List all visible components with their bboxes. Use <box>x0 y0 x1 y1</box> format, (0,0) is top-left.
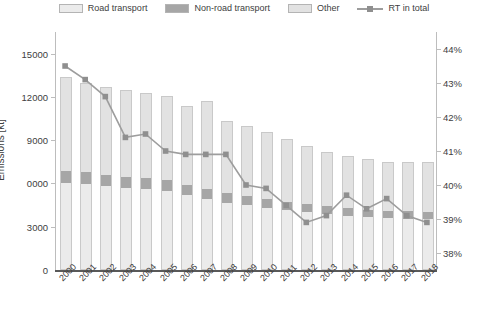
plot-area <box>55 32 437 270</box>
y-axis-right-tick-label: 41% <box>443 146 462 157</box>
bar-segment-other <box>383 163 393 211</box>
bar-2006[interactable] <box>181 106 193 270</box>
bar-segment-non-road-transport <box>383 211 393 219</box>
y-axis-right-tick <box>437 117 441 118</box>
y-axis-right-tick <box>437 151 441 152</box>
y-axis-right-tick-label: 43% <box>443 78 462 89</box>
y-axis-left-tick-label: 3000 <box>27 221 48 232</box>
bar-segment-non-road-transport <box>222 193 232 203</box>
bar-2011[interactable] <box>281 139 293 270</box>
bar-segment-non-road-transport <box>343 208 353 216</box>
legend-label: Non-road transport <box>194 4 270 13</box>
bar-segment-other <box>222 122 232 193</box>
y-axis-left-tick-label: 0000 <box>27 178 48 189</box>
bar-segment-other <box>202 102 212 189</box>
bar-segment-non-road-transport <box>202 189 212 199</box>
bar-segment-non-road-transport <box>121 177 131 188</box>
bar-2015[interactable] <box>362 159 374 270</box>
bar-segment-road-transport <box>282 210 292 269</box>
bar-segment-other <box>322 153 332 207</box>
bar-2005[interactable] <box>161 96 173 270</box>
y-axis-right-tick-label: 44% <box>443 44 462 55</box>
y-axis-right-tick <box>437 83 441 84</box>
legend-rt-in-total[interactable]: RT in total <box>357 4 429 13</box>
bar-segment-non-road-transport <box>322 206 332 214</box>
legend-line-marker-icon <box>357 4 383 13</box>
bar-segment-road-transport <box>182 195 192 269</box>
y-axis-left-tick <box>51 97 55 98</box>
legend-road-transport[interactable]: Road transport <box>59 4 148 13</box>
bar-segment-road-transport <box>61 183 71 269</box>
y-axis-right-tick <box>437 49 441 50</box>
y-axis-left-tick <box>51 140 55 141</box>
y-axis-right-tick <box>437 185 441 186</box>
bar-2009[interactable] <box>241 126 253 270</box>
bar-2017[interactable] <box>402 162 414 270</box>
bar-segment-other <box>121 91 131 177</box>
bar-2000[interactable] <box>60 77 72 270</box>
bar-segment-non-road-transport <box>81 172 91 184</box>
bar-segment-other <box>282 140 292 202</box>
bar-2018[interactable] <box>422 162 434 270</box>
bar-2007[interactable] <box>201 101 213 270</box>
bar-segment-other <box>363 160 373 210</box>
legend-label: Other <box>317 4 340 13</box>
bar-2004[interactable] <box>140 93 152 270</box>
y-axis-left-tick <box>51 54 55 55</box>
legend-swatch-icon <box>59 4 83 13</box>
bar-segment-non-road-transport <box>423 212 433 219</box>
y-axis-right-tick <box>437 219 441 220</box>
legend-swatch-icon <box>288 4 312 13</box>
bar-segment-road-transport <box>343 216 353 269</box>
bar-segment-other <box>242 127 252 196</box>
bar-segment-non-road-transport <box>101 175 111 186</box>
bar-segment-road-transport <box>302 212 312 269</box>
bar-segment-non-road-transport <box>363 210 373 218</box>
bar-segment-other <box>182 107 192 185</box>
bar-2014[interactable] <box>342 156 354 270</box>
bar-2010[interactable] <box>261 132 273 270</box>
bar-segment-non-road-transport <box>61 171 71 183</box>
y-axis-right-tick-label: 39% <box>443 214 462 225</box>
bar-segment-road-transport <box>242 205 252 269</box>
legend-other[interactable]: Other <box>288 4 340 13</box>
bar-segment-other <box>61 78 71 172</box>
bar-segment-road-transport <box>81 184 91 269</box>
bar-2001[interactable] <box>80 83 92 271</box>
legend-swatch-icon <box>165 4 189 13</box>
bar-segment-road-transport <box>202 199 212 269</box>
bar-segment-road-transport <box>162 191 172 269</box>
y-axis-left-tick <box>51 183 55 184</box>
y-axis-left-labels: 03000000090001200015000 <box>0 0 48 312</box>
bar-2012[interactable] <box>301 146 313 270</box>
bar-2016[interactable] <box>382 162 394 270</box>
bar-segment-non-road-transport <box>262 199 272 208</box>
bar-segment-non-road-transport <box>302 204 312 212</box>
bar-segment-other <box>423 163 433 212</box>
y-axis-left-tick-label: 9000 <box>27 135 48 146</box>
legend-non-road-transport[interactable]: Non-road transport <box>165 4 270 13</box>
bar-segment-road-transport <box>222 203 232 269</box>
bar-segment-non-road-transport <box>141 178 151 189</box>
bar-segment-other <box>403 163 413 212</box>
emissions-stacked-bar-chart: Road transportNon-road transportOtherRT … <box>0 0 488 312</box>
bar-2008[interactable] <box>221 121 233 270</box>
bar-segment-other <box>162 97 172 180</box>
bar-segment-road-transport <box>101 186 111 269</box>
legend-label: RT in total <box>388 4 429 13</box>
y-axis-left-tick-label: 0 <box>43 265 48 276</box>
bar-segment-road-transport <box>141 189 151 269</box>
bar-2003[interactable] <box>120 90 132 270</box>
legend-label: Road transport <box>88 4 148 13</box>
bar-2002[interactable] <box>100 87 112 270</box>
y-axis-right-tick <box>437 253 441 254</box>
bar-segment-other <box>262 133 272 200</box>
bar-segment-road-transport <box>322 214 332 269</box>
bar-segment-road-transport <box>363 217 373 269</box>
bar-2013[interactable] <box>321 152 333 270</box>
bar-segment-road-transport <box>383 218 393 269</box>
y-axis-right-tick-label: 40% <box>443 180 462 191</box>
bar-segment-road-transport <box>403 219 413 269</box>
bar-segment-road-transport <box>423 219 433 269</box>
y-axis-left-tick-label: 12000 <box>22 91 48 102</box>
